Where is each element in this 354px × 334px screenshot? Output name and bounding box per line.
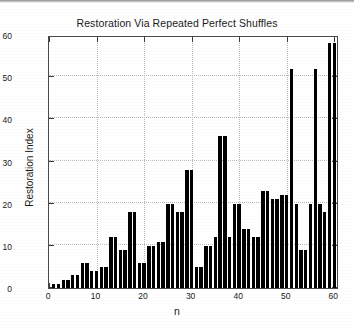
bar (275, 199, 278, 288)
bar (138, 263, 141, 288)
bar (285, 195, 288, 288)
x-axis-title: n (0, 305, 354, 317)
y-axis-title: Restoration Index (24, 93, 35, 243)
bar (256, 237, 259, 288)
bar (323, 212, 326, 288)
x-tick-label: 50 (271, 291, 301, 301)
bar (71, 275, 74, 288)
chart-figure: Restoration Via Repeated Perfect Shuffle… (0, 0, 354, 334)
bar (62, 280, 65, 288)
bar (304, 250, 307, 288)
bar (228, 237, 231, 288)
x-tick-label: 10 (81, 291, 111, 301)
bar (152, 246, 155, 288)
x-tick-label: 40 (223, 291, 253, 301)
bar (76, 275, 79, 288)
y-tick-label: 30 (0, 158, 12, 168)
bar (204, 246, 207, 288)
bar (157, 242, 160, 288)
bars-layer (49, 37, 337, 288)
bar (271, 199, 274, 288)
x-tick-label: 0 (33, 291, 63, 301)
bar (119, 250, 122, 288)
bar (161, 242, 164, 288)
bar (176, 212, 179, 288)
x-tick-label: 20 (128, 291, 158, 301)
y-tick-label: 40 (0, 115, 12, 125)
bar (185, 170, 188, 288)
y-tick-label: 20 (0, 200, 12, 210)
bar (147, 246, 150, 288)
bar (114, 237, 117, 288)
bar (109, 237, 112, 288)
scan-edge (0, 0, 354, 3)
bar (133, 212, 136, 288)
bar (314, 69, 317, 288)
bar (123, 250, 126, 288)
bar (85, 263, 88, 288)
bar (52, 284, 55, 288)
bar (95, 271, 98, 288)
x-tick-label: 60 (318, 291, 348, 301)
bar (261, 191, 264, 288)
bar (252, 237, 255, 288)
y-tick-label: 60 (0, 31, 12, 41)
bar (266, 191, 269, 288)
bar (195, 267, 198, 288)
bar (328, 43, 331, 288)
bar (233, 204, 236, 288)
bar (199, 267, 202, 288)
x-tick-label: 30 (176, 291, 206, 301)
y-tick-label: 10 (0, 242, 12, 252)
bar (333, 43, 336, 288)
bar (209, 246, 212, 288)
bar (290, 69, 293, 288)
bar (309, 204, 312, 288)
bar (66, 280, 69, 288)
bar (247, 229, 250, 288)
bar (166, 204, 169, 288)
bar (223, 136, 226, 288)
bar (180, 212, 183, 288)
bar (218, 136, 221, 288)
bar (299, 250, 302, 288)
bar (280, 195, 283, 288)
bar (100, 267, 103, 288)
bar (57, 284, 60, 288)
bar (142, 263, 145, 288)
bar (104, 267, 107, 288)
bar (90, 271, 93, 288)
bar (171, 204, 174, 288)
bar (190, 170, 193, 288)
bar (242, 229, 245, 288)
y-tick-label: 0 (0, 284, 12, 294)
bar (295, 204, 298, 288)
bar (237, 204, 240, 288)
bar (318, 204, 321, 288)
y-tick-label: 50 (0, 73, 12, 83)
bar (81, 263, 84, 288)
bar (128, 212, 131, 288)
plot-area (48, 36, 338, 289)
chart-title: Restoration Via Repeated Perfect Shuffle… (0, 17, 354, 29)
bar (214, 237, 217, 288)
